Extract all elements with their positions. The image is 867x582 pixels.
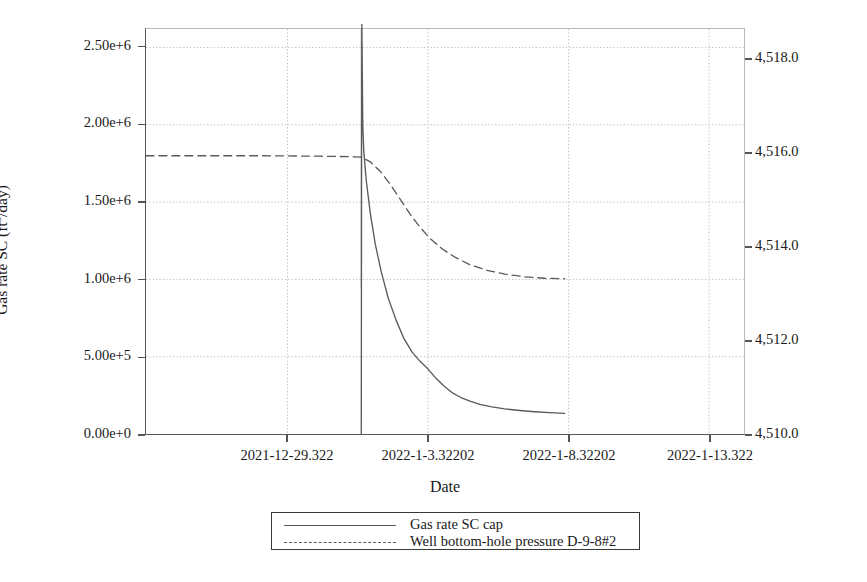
x-axis-tick-label: 2022-1-13.322 <box>625 447 795 464</box>
x-axis-tick <box>709 435 711 442</box>
y-axis-left-tick-label: 1.50e+6 <box>0 192 131 209</box>
y-axis-left-tick-label: 2.00e+6 <box>0 114 131 131</box>
data-curves <box>146 29 744 434</box>
y-axis-left-tick <box>138 357 145 359</box>
y-axis-right-tick <box>745 58 752 60</box>
x-axis-tick <box>568 435 570 442</box>
x-axis-title: Date <box>145 478 745 496</box>
chart-figure: Gas rate SC (ft3/day) Well bottom-hole p… <box>0 0 867 582</box>
legend-item: Gas rate SC cap <box>272 516 639 533</box>
y-axis-right-tick <box>745 152 752 154</box>
legend-swatch-dashed-icon <box>284 536 396 548</box>
legend-swatch-solid-icon <box>284 519 396 531</box>
y-axis-right-tick-label: 4,516.0 <box>755 143 835 160</box>
legend-label: Gas rate SC cap <box>410 516 503 533</box>
y-axis-left-tick <box>138 124 145 126</box>
series-path <box>146 156 565 279</box>
y-axis-right-tick-label: 4,512.0 <box>755 331 835 348</box>
y-axis-right-tick <box>745 340 752 342</box>
y-axis-left-tick <box>138 46 145 48</box>
chart-legend: Gas rate SC cap Well bottom-hole pressur… <box>271 512 640 550</box>
y-axis-left-tick <box>138 279 145 281</box>
y-axis-right-tick <box>745 434 752 436</box>
y-axis-left-tick <box>138 434 145 436</box>
y-axis-left-tick <box>138 201 145 203</box>
y-axis-left-tick-label: 2.50e+6 <box>0 37 131 54</box>
legend-item: Well bottom-hole pressure D-9-8#2 <box>272 533 639 550</box>
x-axis-tick <box>286 435 288 442</box>
series-path <box>361 24 564 434</box>
x-axis-tick <box>427 435 429 442</box>
legend-label: Well bottom-hole pressure D-9-8#2 <box>410 533 616 550</box>
y-axis-left-tick-label: 1.00e+6 <box>0 270 131 287</box>
y-axis-left-tick-label: 5.00e+5 <box>0 347 131 364</box>
y-axis-left-tick-label: 0.00e+0 <box>0 425 131 442</box>
y-axis-right-tick-label: 4,514.0 <box>755 237 835 254</box>
y-axis-right-tick-label: 4,510.0 <box>755 425 835 442</box>
plot-area <box>145 28 745 435</box>
y-axis-right-tick <box>745 246 752 248</box>
y-axis-right-tick-label: 4,518.0 <box>755 49 835 66</box>
